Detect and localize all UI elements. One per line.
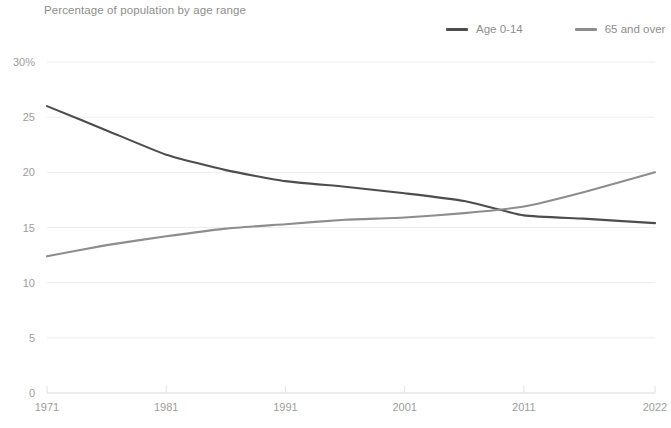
series-line-65-and-over: [47, 172, 655, 256]
y-axis-tick-label: 20: [23, 166, 35, 178]
y-axis-tick-label: 5: [29, 332, 35, 344]
series-line-age-0-14: [47, 106, 655, 223]
y-axis-tick-labels: 051015202530%: [13, 56, 35, 399]
x-axis-tick-label: 1981: [154, 401, 178, 413]
x-axis-tick-label: 1991: [273, 401, 297, 413]
y-axis-tick-label: 0: [29, 387, 35, 399]
y-axis-tick-label: 30%: [13, 56, 35, 68]
y-axis-tick-label: 25: [23, 111, 35, 123]
plot-area: 051015202530% 197119811991200120112022: [0, 0, 671, 428]
x-axis-tick-label: 1971: [35, 401, 59, 413]
x-axis: [47, 386, 655, 393]
x-axis-tick-labels: 197119811991200120112022: [35, 401, 667, 413]
x-axis-tick-label: 2011: [512, 401, 536, 413]
gridlines: [47, 62, 655, 393]
x-axis-tick-label: 2022: [643, 401, 667, 413]
data-lines: [47, 106, 655, 256]
line-chart: Percentage of population by age range Ag…: [0, 0, 671, 428]
y-axis-tick-label: 10: [23, 277, 35, 289]
y-axis-tick-label: 15: [23, 222, 35, 234]
x-axis-tick-label: 2001: [392, 401, 416, 413]
